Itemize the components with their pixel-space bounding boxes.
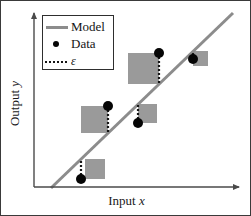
solid-line-icon xyxy=(43,19,71,35)
data-point xyxy=(76,174,86,184)
legend-box: Model Data ε xyxy=(42,15,114,70)
regression-error-figure: Model Data ε Input x Output y xyxy=(0,0,251,216)
legend-item-epsilon: ε xyxy=(43,52,113,69)
y-axis-label-symbol: y xyxy=(7,81,22,87)
error-square-group xyxy=(81,51,208,179)
error-square xyxy=(128,53,159,84)
filled-dot-icon xyxy=(43,36,71,52)
legend-label-epsilon: ε xyxy=(71,55,76,67)
legend-label-model: Model xyxy=(71,20,105,33)
error-square xyxy=(85,159,105,179)
legend-label-data: Data xyxy=(71,37,96,50)
plot-canvas xyxy=(1,1,251,216)
data-point xyxy=(188,54,198,64)
legend-item-data: Data xyxy=(43,35,113,52)
x-axis-label-symbol: x xyxy=(139,193,145,208)
error-square xyxy=(81,106,108,133)
x-axis-label-prefix: Input xyxy=(108,193,139,208)
data-point xyxy=(133,118,143,128)
x-axis-label: Input x xyxy=(1,194,251,207)
y-axis-label: Output y xyxy=(8,59,21,149)
data-point xyxy=(154,48,164,58)
data-point xyxy=(103,101,113,111)
legend-item-model: Model xyxy=(43,18,113,35)
dotted-line-icon xyxy=(43,53,71,69)
y-axis-label-prefix: Output xyxy=(7,87,22,126)
